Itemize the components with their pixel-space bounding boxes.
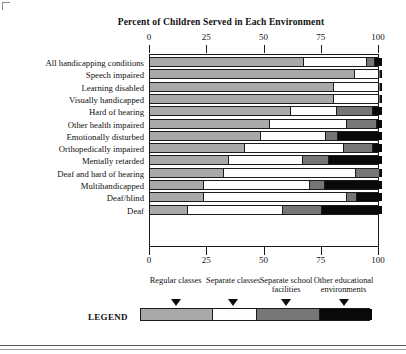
stacked-bar (149, 168, 378, 178)
axis-tick-label: 100 (371, 32, 385, 42)
axis-tick (149, 45, 150, 53)
bar-segment (150, 95, 333, 103)
bar-segment (325, 132, 337, 140)
bar-segment (150, 70, 354, 78)
axis-tick-label: 100 (371, 255, 385, 265)
legend-pointer-icon (228, 299, 238, 306)
legend-key-label: Regular classes (145, 276, 207, 285)
axis-tick-label: 75 (316, 255, 325, 265)
category-label: Deaf and hard of hearing (4, 168, 144, 180)
bar-segment (282, 206, 322, 214)
bar-segment (150, 206, 187, 214)
bar-row: Learning disabled (0, 82, 406, 94)
bar-segment (244, 144, 343, 152)
stacked-bar (149, 119, 378, 129)
stacked-bar (149, 180, 378, 190)
bar-segment (372, 144, 382, 152)
bar-segment (324, 181, 382, 189)
bar-segment (203, 193, 346, 201)
axis-tick-label: 0 (147, 255, 152, 265)
bar-segment (269, 120, 346, 128)
axis-tick (149, 247, 150, 255)
axis-tick (378, 45, 379, 53)
bar-row: All handicapping conditions (0, 57, 406, 69)
bar-segment (187, 206, 282, 214)
bar-row: Multihandicapped (0, 180, 406, 192)
category-label: Emotionally disturbed (4, 131, 144, 143)
axis-tick (378, 247, 379, 255)
bar-segment (150, 144, 244, 152)
bar-segment (346, 193, 356, 201)
axis-tick-label: 50 (259, 32, 268, 42)
legend-key-label: Separate school facilities (255, 276, 317, 295)
bar-segment (366, 58, 374, 66)
bar-segment (150, 120, 269, 128)
category-label: Visually handicapped (4, 94, 144, 106)
legend-key-label: Other educational environments (313, 276, 375, 295)
legend-pointer-icon (339, 299, 349, 306)
bar-segment (150, 181, 203, 189)
legend-swatch (212, 309, 256, 320)
legend-title: LEGEND (88, 312, 128, 322)
bar-segment (150, 83, 333, 91)
category-label: Speech impaired (4, 69, 144, 81)
axis-tick-label: 50 (259, 255, 268, 265)
bar-segment (379, 169, 382, 177)
axis-tick-label: 25 (202, 255, 211, 265)
bar-row: Deaf and hard of hearing (0, 168, 406, 180)
bar-row: Speech impaired (0, 69, 406, 81)
bar-row: Deaf (0, 205, 406, 217)
bar-segment (290, 107, 337, 115)
legend-swatch (256, 309, 319, 320)
bar-segment (228, 156, 302, 164)
legend-pointer-icon (171, 299, 181, 306)
category-label: Other health impaired (4, 119, 144, 131)
bar-segment (150, 156, 228, 164)
bar-segment (203, 181, 309, 189)
stacked-bar (149, 57, 378, 67)
stacked-bar (149, 82, 378, 92)
bar-segment (321, 206, 382, 214)
category-label: Multihandicapped (4, 180, 144, 192)
category-label: Learning disabled (4, 82, 144, 94)
stacked-bar (149, 106, 378, 116)
stacked-bar (149, 205, 378, 215)
bar-segment (372, 107, 382, 115)
legend-swatch-bar (140, 308, 370, 321)
category-label: All handicapping conditions (4, 57, 144, 69)
bar-segment (302, 156, 328, 164)
axis-tick-label: 0 (147, 32, 152, 42)
axis-tick (264, 45, 265, 53)
footer-rule-2 (0, 349, 406, 350)
bar-segment (380, 95, 382, 103)
category-label: Deaf (4, 205, 144, 217)
stacked-bar (149, 155, 378, 165)
bar-segment (223, 169, 355, 177)
bar-row: Other health impaired (0, 119, 406, 131)
bar-segment (374, 58, 382, 66)
bar-segment (380, 70, 382, 78)
bar-row: Emotionally disturbed (0, 131, 406, 143)
axis-tick-label: 25 (202, 32, 211, 42)
stacked-bar (149, 143, 378, 153)
bar-segment (355, 169, 379, 177)
bar-segment (346, 120, 377, 128)
bar-segment (328, 156, 382, 164)
bar-row: Visually handicapped (0, 94, 406, 106)
bar-segment (150, 169, 223, 177)
bar-segment (303, 58, 366, 66)
stacked-bar (149, 94, 378, 104)
bar-segment (150, 58, 303, 66)
bar-segment (354, 70, 378, 78)
footer-rule-1 (0, 345, 406, 346)
bar-row: Orthopedically impaired (0, 143, 406, 155)
bar-segment (337, 132, 382, 140)
legend-swatch (319, 309, 372, 320)
bar-row: Hard of hearing (0, 106, 406, 118)
legend: LEGEND Regular classesSeparate classesSe… (0, 276, 406, 336)
axis-tick (206, 247, 207, 255)
category-label: Hard of hearing (4, 106, 144, 118)
legend-swatch (141, 309, 212, 320)
category-label: Orthopedically impaired (4, 143, 144, 155)
bar-row: Mentally retarded (0, 155, 406, 167)
